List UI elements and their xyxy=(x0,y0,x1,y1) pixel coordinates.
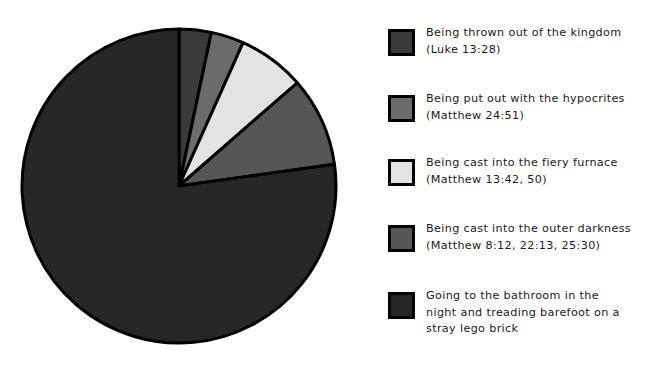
legend-label-lego-brick: Going to the bathroom in the night and t… xyxy=(426,287,646,338)
legend-item[interactable]: Being cast into the fiery furnace (Matth… xyxy=(388,154,646,188)
legend-label-hypocrites: Being put out with the hypocrites (Matth… xyxy=(426,90,646,124)
legend-item[interactable]: Being thrown out of the kingdom (Luke 13… xyxy=(388,24,646,58)
legend-swatch-darkness xyxy=(388,225,415,252)
legend-item[interactable]: Being put out with the hypocrites (Matth… xyxy=(388,90,646,124)
legend-swatch-furnace xyxy=(388,159,415,186)
legend-swatch-lego-brick xyxy=(388,292,415,319)
legend-item[interactable]: Being cast into the outer darkness (Matt… xyxy=(388,220,646,254)
legend-swatch-kingdom xyxy=(388,29,415,56)
pie-slice-group xyxy=(22,29,336,343)
pie-chart-svg xyxy=(0,0,372,374)
legend-label-kingdom: Being thrown out of the kingdom (Luke 13… xyxy=(426,24,646,58)
legend-label-darkness: Being cast into the outer darkness (Matt… xyxy=(426,220,646,254)
pie-chart-figure: Being thrown out of the kingdom (Luke 13… xyxy=(0,0,648,374)
chart-legend: Being thrown out of the kingdom (Luke 13… xyxy=(388,14,646,364)
pie-chart-plot-area xyxy=(0,0,372,374)
legend-swatch-hypocrites xyxy=(388,95,415,122)
legend-item[interactable]: Going to the bathroom in the night and t… xyxy=(388,287,646,338)
legend-label-furnace: Being cast into the fiery furnace (Matth… xyxy=(426,154,646,188)
